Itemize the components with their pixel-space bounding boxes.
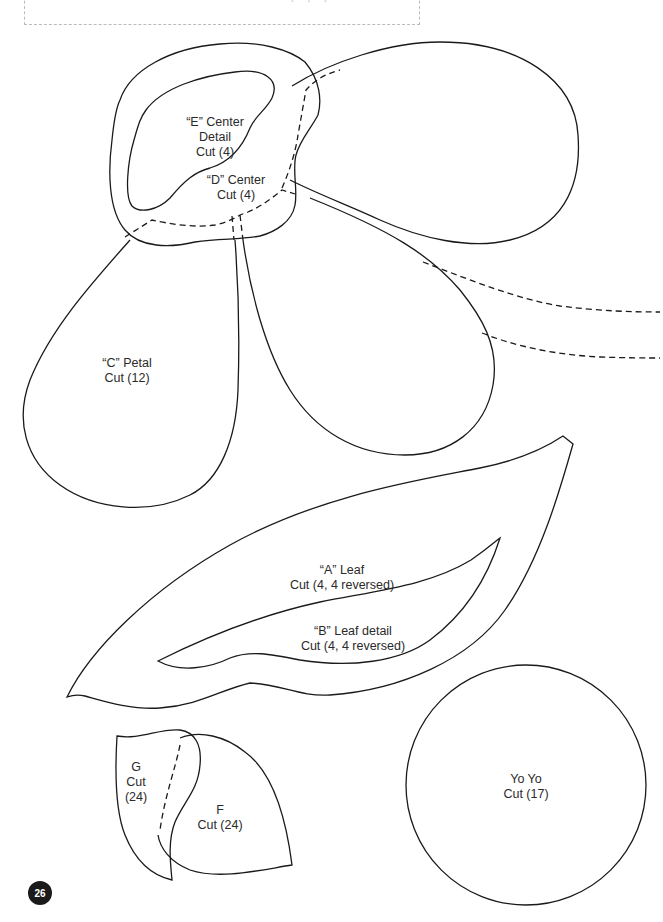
label-e-center: “E” Center Detail Cut (4): [186, 115, 244, 160]
label-a-leaf: “A” Leaf Cut (4, 4 reversed): [290, 563, 394, 593]
overlap-dashed-lower: [482, 333, 660, 358]
label-yoyo: Yo Yo Cut (17): [503, 772, 548, 802]
label-c-petal: “C” Petal Cut (12): [102, 356, 151, 386]
pattern-pieces-drawing: [0, 0, 663, 922]
label-g: G Cut (24): [125, 760, 147, 805]
label-f: F Cut (24): [197, 803, 242, 833]
petal-stem-dashed-b: [240, 215, 243, 240]
label-b-leaf-detail: “B” Leaf detail Cut (4, 4 reversed): [301, 624, 405, 654]
pattern-page: · · · “E” Center Detail Cut (: [0, 0, 663, 922]
overlap-dashed-upper: [423, 262, 660, 312]
petal-lower-right-outline: [243, 198, 494, 455]
label-d-center: “D” Center Cut (4): [207, 173, 265, 203]
page-number-badge: 26: [28, 881, 52, 905]
petal-stem-dashed-a: [232, 216, 234, 240]
petal-seam-dashed-right: [282, 70, 340, 188]
